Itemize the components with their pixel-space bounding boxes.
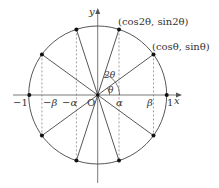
x-axis-label: x <box>174 95 180 106</box>
two-theta-label: 2θ <box>103 70 116 80</box>
tick-alpha: α <box>116 97 123 108</box>
point-theta-label: (cosθ, sinθ) <box>152 41 210 52</box>
unit-circle-diagram: y x O −1 1 −β −α α β θ 2θ (cos2θ, sin2θ)… <box>0 0 219 188</box>
y-axis-label: y <box>88 6 95 17</box>
origin-label: O <box>87 97 95 108</box>
tick-neg-alpha: −α <box>62 97 77 108</box>
tick-neg-one: −1 <box>13 97 28 108</box>
point-two-theta-label: (cos2θ, sin2θ) <box>118 16 189 27</box>
theta-label: θ <box>108 85 114 95</box>
tick-neg-beta: −β <box>43 97 57 108</box>
y-axis-arrow-icon <box>95 8 100 14</box>
tick-one: 1 <box>167 97 173 108</box>
tick-beta: β <box>146 97 153 108</box>
